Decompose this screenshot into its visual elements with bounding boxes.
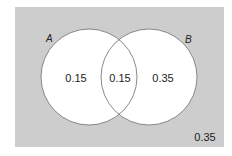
region-intersection-value: 0.15 [109, 72, 130, 84]
region-b-only-value: 0.35 [152, 72, 173, 84]
set-b-label: B [185, 34, 192, 45]
set-a-label: A [45, 33, 53, 44]
region-a-only-value: 0.15 [65, 72, 86, 84]
venn-diagram: A B 0.15 0.15 0.35 0.35 [0, 0, 232, 156]
region-neither-value: 0.35 [194, 131, 215, 143]
